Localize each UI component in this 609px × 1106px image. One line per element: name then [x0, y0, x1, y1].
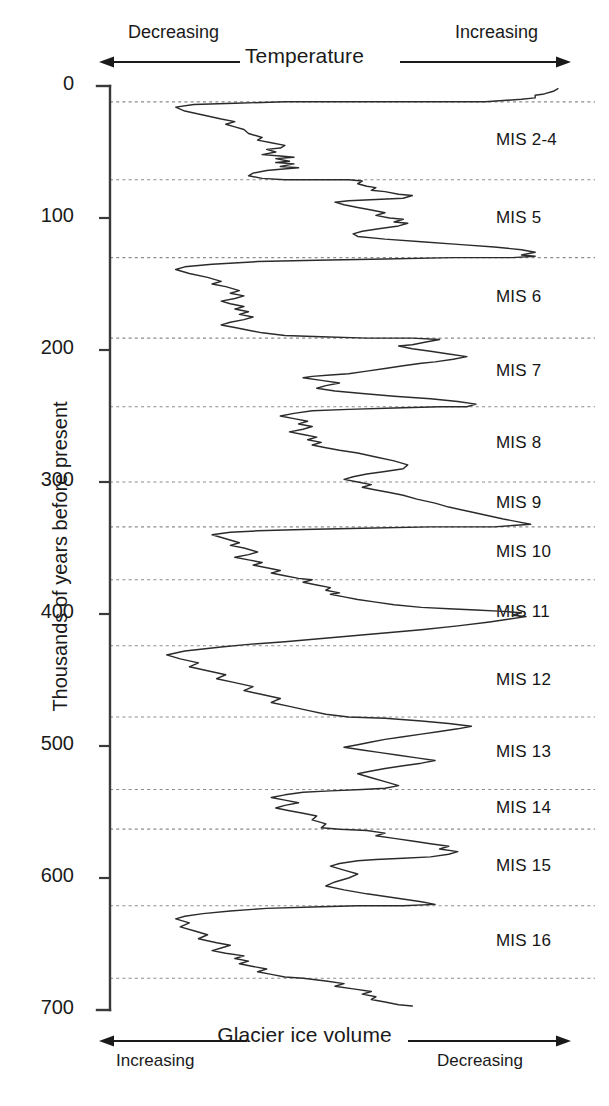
stage-boundary-lines — [110, 102, 595, 978]
y-axis-ticks — [99, 218, 110, 878]
isotope-proxy-curve — [167, 89, 558, 1006]
ice-volume-arrow — [99, 1036, 571, 1047]
figure-vector-layer — [0, 0, 609, 1106]
mis-stage-figure: Decreasing Increasing Temperature Glacie… — [0, 0, 609, 1106]
temperature-arrow — [99, 57, 571, 68]
y-axis-spine — [97, 86, 110, 1010]
